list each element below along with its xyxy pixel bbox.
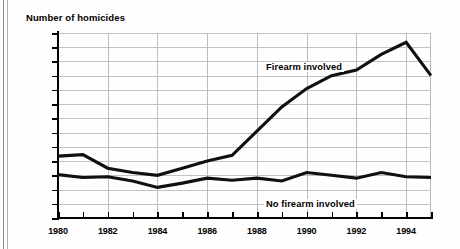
series-lines <box>0 0 460 249</box>
line-no-firearm-involved <box>58 172 431 187</box>
chart-page: Number of homicides 2,6002,4002,2002,000… <box>0 0 460 249</box>
series-label-no-firearm-involved: No firearm involved <box>264 199 357 209</box>
line-firearm-involved <box>58 42 431 175</box>
series-label-firearm-involved: Firearm involved <box>264 62 344 72</box>
